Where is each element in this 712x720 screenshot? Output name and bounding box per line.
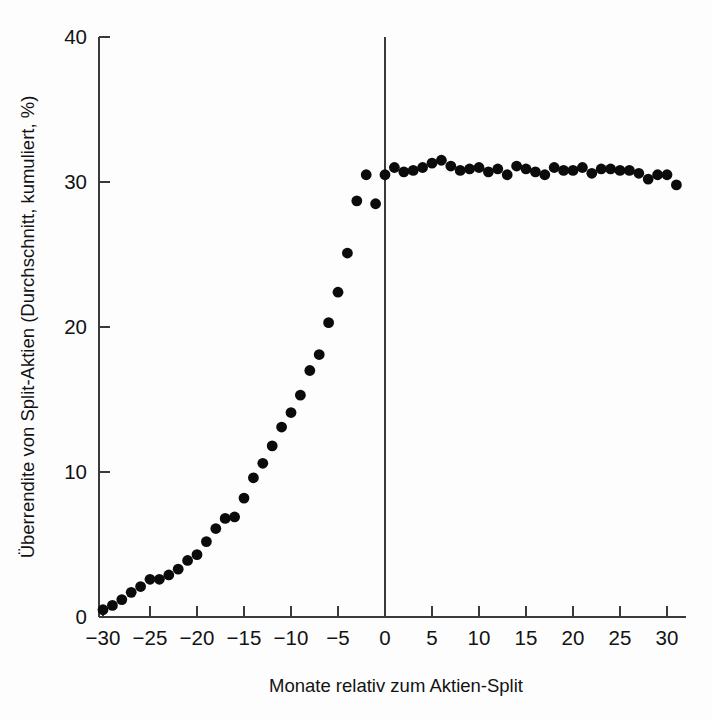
y-tick-label-0: 0	[76, 605, 87, 628]
data-point	[192, 549, 203, 560]
x-tick-labels: −30−25−20−15−10−5051015202530	[86, 626, 679, 649]
data-point	[511, 161, 522, 172]
x-tick-label-30: 30	[656, 626, 679, 649]
data-point	[107, 600, 118, 611]
x-tick-label--10: −10	[274, 626, 309, 649]
data-point	[398, 166, 409, 177]
y-tick-label-40: 40	[64, 25, 87, 48]
tick-marks	[99, 37, 667, 617]
data-point	[295, 390, 306, 401]
data-point	[173, 564, 184, 575]
x-tick-label-10: 10	[468, 626, 491, 649]
x-tick-label-15: 15	[515, 626, 538, 649]
data-point	[521, 164, 532, 175]
data-point	[351, 195, 362, 206]
y-tick-label-20: 20	[64, 315, 87, 338]
data-point	[163, 570, 174, 581]
x-tick-label--30: −30	[86, 626, 121, 649]
data-point	[220, 513, 231, 524]
data-point	[492, 164, 503, 175]
data-point	[596, 164, 607, 175]
data-point	[248, 472, 259, 483]
x-tick-label-20: 20	[562, 626, 585, 649]
data-point	[116, 594, 127, 605]
data-point	[605, 164, 616, 175]
data-point	[342, 248, 353, 259]
data-point	[286, 407, 297, 418]
data-point	[361, 169, 372, 180]
data-point	[624, 165, 635, 176]
data-point	[380, 169, 391, 180]
data-point	[145, 574, 156, 585]
data-point	[436, 155, 447, 166]
data-point	[304, 365, 315, 376]
y-tick-labels: 010203040	[64, 25, 87, 628]
data-point	[539, 169, 550, 180]
x-tick-label--15: −15	[227, 626, 262, 649]
x-axis-title: Monate relativ zum Aktien-Split	[269, 675, 523, 696]
data-point	[464, 164, 475, 175]
series-0	[98, 155, 682, 615]
data-point	[586, 168, 597, 179]
data-point	[210, 523, 221, 534]
x-tick-label--25: −25	[133, 626, 168, 649]
data-point	[229, 512, 240, 523]
data-point	[549, 162, 560, 173]
data-point	[568, 165, 579, 176]
data-point	[154, 574, 165, 585]
data-point	[502, 169, 513, 180]
data-point	[314, 349, 325, 360]
data-point	[662, 169, 673, 180]
data-point	[643, 174, 654, 185]
data-point	[135, 581, 146, 592]
data-point	[652, 169, 663, 180]
data-point	[323, 317, 334, 328]
x-tick-label--20: −20	[180, 626, 215, 649]
data-point	[577, 162, 588, 173]
data-point	[615, 165, 626, 176]
data-point	[483, 166, 494, 177]
data-point	[98, 604, 109, 615]
axes	[99, 37, 686, 617]
x-tick-label--5: −5	[326, 626, 349, 649]
data-point	[333, 287, 344, 298]
data-point	[417, 162, 428, 173]
y-tick-label-30: 30	[64, 170, 87, 193]
data-point	[126, 587, 137, 598]
x-tick-label-5: 5	[426, 626, 437, 649]
data-point	[389, 162, 400, 173]
data-point	[455, 165, 466, 176]
data-point	[427, 158, 438, 169]
data-point	[370, 198, 381, 209]
y-tick-label-10: 10	[64, 460, 87, 483]
data-point	[671, 180, 682, 191]
data-point	[633, 168, 644, 179]
chart-figure: −30−25−20−15−10−5051015202530 010203040 …	[0, 0, 712, 720]
data-point	[239, 493, 250, 504]
data-point	[201, 536, 212, 547]
data-point	[408, 165, 419, 176]
scatter-plot-canvas: −30−25−20−15−10−5051015202530 010203040 …	[0, 0, 712, 720]
data-point	[558, 165, 569, 176]
data-points	[98, 155, 682, 615]
data-point	[182, 555, 193, 566]
y-axis-title: Überrendite von Split-Aktien (Durchschni…	[17, 96, 38, 559]
x-tick-label-0: 0	[379, 626, 390, 649]
data-point	[530, 166, 541, 177]
data-point	[257, 458, 268, 469]
x-tick-label-25: 25	[609, 626, 632, 649]
data-point	[267, 441, 278, 452]
data-point	[445, 161, 456, 172]
data-point	[474, 162, 485, 173]
data-point	[276, 422, 287, 433]
